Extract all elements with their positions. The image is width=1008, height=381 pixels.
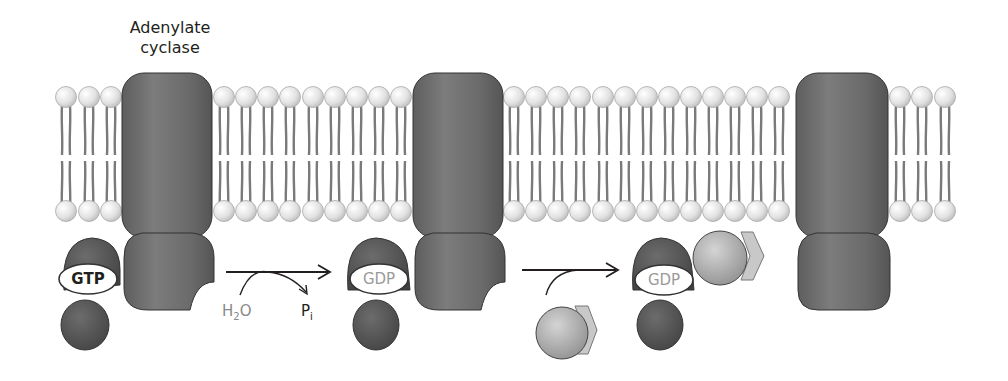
diagram-canvas: Adenylate cyclase GTP GDP GDP H2O Pi [0,0,1008,381]
g-beta-gamma-bound [693,231,764,285]
water-label: H2O [222,302,251,322]
gdp-label-1: GDP [350,270,408,288]
g-alpha-gtp [59,238,120,350]
reaction-arrow-2 [522,263,618,295]
gtp-label: GTP [59,270,117,288]
g-beta-gamma-free [536,306,597,359]
adenylate-cyclase-3 [796,73,890,310]
adenylate-cyclase-label: Adenylate cyclase [110,18,230,58]
label-line-1: Adenylate [110,18,230,38]
g-alpha-gdp-1 [348,238,410,350]
adenylate-cyclase-2 [413,73,505,310]
label-line-2: cyclase [110,38,230,58]
reaction-arrow-1 [226,265,330,295]
adenylate-cyclase-1 [122,73,214,310]
g-alpha-gdp-2 [633,238,694,350]
phosphate-label: Pi [301,302,313,322]
gdp-label-2: GDP [635,271,693,289]
